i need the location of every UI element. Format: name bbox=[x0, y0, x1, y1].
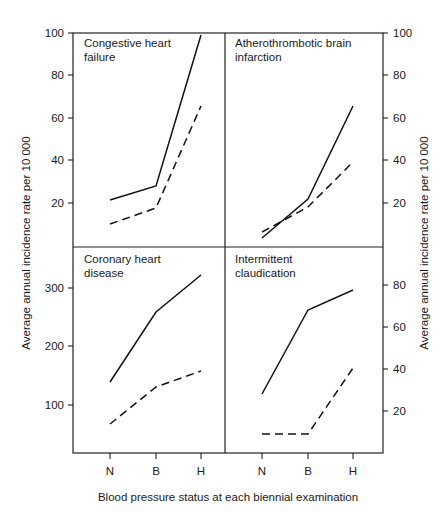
ytick-tl-80: 80 bbox=[51, 69, 64, 81]
ytick-bl-100: 100 bbox=[45, 399, 64, 411]
panel-top-left: Congestive heart failure bbox=[84, 35, 201, 224]
series-dashed-intermittent bbox=[262, 368, 353, 434]
panel-top-right: Atherothrombotic brain infarction bbox=[235, 37, 353, 238]
xtick-left-B: B bbox=[152, 465, 160, 477]
xtick-right-N: N bbox=[258, 465, 266, 477]
ytick-tr-60: 60 bbox=[393, 112, 406, 124]
ytick-tl-20: 20 bbox=[51, 197, 64, 209]
xtick-left-N: N bbox=[106, 465, 114, 477]
panel-title-intermittent-claudication-line2: claudication bbox=[235, 267, 296, 279]
figure-container: Congestive heart failure 100 80 60 40 20… bbox=[0, 0, 446, 515]
panel-title-congestive-heart-failure-line2: failure bbox=[84, 51, 115, 63]
yaxis-right-top: 100 80 60 40 20 bbox=[383, 27, 412, 209]
ytick-bl-200: 200 bbox=[45, 340, 64, 352]
ytick-tl-40: 40 bbox=[51, 154, 64, 166]
xtick-right-B: B bbox=[304, 465, 312, 477]
xtick-left-H: H bbox=[197, 465, 205, 477]
series-dashed-atherothrombotic bbox=[262, 162, 353, 232]
ytick-tr-80: 80 bbox=[393, 69, 406, 81]
ytick-tr-40: 40 bbox=[393, 154, 406, 166]
ytick-tl-100: 100 bbox=[45, 27, 64, 39]
panel-title-coronary-heart-disease: Coronary heart bbox=[84, 253, 162, 265]
xaxis-ticks bbox=[110, 453, 353, 459]
series-solid-atherothrombotic bbox=[262, 106, 353, 238]
ytick-br-40: 40 bbox=[393, 363, 406, 375]
yaxis-title-right: Average annual incidence rate per 10 000 bbox=[418, 136, 430, 349]
series-dashed-coronary bbox=[110, 371, 201, 424]
ytick-tr-100: 100 bbox=[393, 27, 412, 39]
xtick-right-H: H bbox=[349, 465, 357, 477]
series-dashed-congestive bbox=[110, 106, 201, 224]
ytick-br-80: 80 bbox=[393, 279, 406, 291]
yaxis-left-bottom: 300 200 100 bbox=[45, 282, 73, 411]
yaxis-left-top: 100 80 60 40 20 bbox=[45, 27, 73, 209]
ytick-tr-20: 20 bbox=[393, 197, 406, 209]
panel-title-atherothrombotic-brain-infarction: Atherothrombotic brain bbox=[235, 37, 351, 49]
panel-title-intermittent-claudication: Intermittent bbox=[235, 253, 293, 265]
panel-title-atherothrombotic-brain-infarction-line2: infarction bbox=[235, 51, 282, 63]
plot-frame bbox=[73, 33, 383, 453]
multi-panel-line-chart: Congestive heart failure 100 80 60 40 20… bbox=[0, 0, 446, 515]
ytick-br-60: 60 bbox=[393, 321, 406, 333]
xaxis-category-labels: N B H N B H bbox=[106, 465, 357, 477]
series-solid-intermittent bbox=[262, 290, 353, 394]
yaxis-title-left: Average annual incidence rate per 10 000 bbox=[20, 136, 32, 349]
series-solid-congestive bbox=[110, 35, 201, 200]
ytick-tl-60: 60 bbox=[51, 112, 64, 124]
series-solid-coronary bbox=[110, 275, 201, 382]
yaxis-right-bottom: 80 60 40 20 bbox=[383, 279, 406, 417]
ytick-bl-300: 300 bbox=[45, 282, 64, 294]
panel-title-congestive-heart-failure: Congestive heart bbox=[84, 37, 172, 49]
ytick-br-20: 20 bbox=[393, 405, 406, 417]
xaxis-caption: Blood pressure status at each biennial e… bbox=[98, 491, 358, 503]
panel-title-coronary-heart-disease-line2: disease bbox=[84, 267, 124, 279]
panel-bottom-right: Intermittent claudication bbox=[235, 253, 353, 434]
panel-bottom-left: Coronary heart disease bbox=[84, 253, 201, 424]
